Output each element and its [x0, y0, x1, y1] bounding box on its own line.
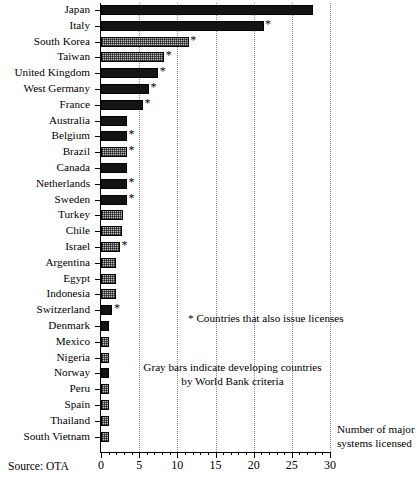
category-label: Turkey [0, 208, 90, 220]
category-label: Netherlands [0, 177, 90, 189]
category-tick [95, 373, 101, 374]
license-asterisk: * [122, 239, 128, 251]
category-label: Indonesia [0, 287, 90, 299]
license-asterisk: * [166, 49, 172, 61]
bar [101, 100, 143, 110]
license-asterisk: * [128, 176, 134, 188]
category-tick [95, 105, 101, 106]
bar-chart: JapanItaly*South Korea*Taiwan*United Kin… [0, 0, 419, 488]
category-label: Mexico [0, 335, 90, 347]
x-tick-17 [231, 452, 232, 455]
license-asterisk: * [190, 34, 196, 46]
bar-row: Spain [0, 398, 419, 414]
category-tick [95, 342, 101, 343]
category-label: South Vietnam [0, 430, 90, 442]
x-tick-3 [124, 452, 125, 455]
bar [101, 274, 116, 284]
bar [101, 337, 109, 347]
license-asterisk: * [265, 18, 271, 30]
category-label: Switzerland [0, 303, 90, 315]
x-tick-8 [162, 452, 163, 455]
x-tick-9 [170, 452, 171, 455]
x-tick-label-15: 15 [201, 458, 231, 472]
category-label: Thailand [0, 414, 90, 426]
bar-row: Mexico [0, 335, 419, 351]
category-tick [95, 184, 101, 185]
x-tick-19 [246, 452, 247, 455]
bar [101, 147, 127, 157]
category-label: Taiwan [0, 50, 90, 62]
x-tick-6 [147, 452, 148, 455]
x-tick-24 [284, 452, 285, 455]
bar [101, 289, 116, 299]
category-label: Peru [0, 382, 90, 394]
bar [101, 163, 127, 173]
category-tick [95, 294, 101, 295]
source-note: Source: OTA [8, 459, 69, 473]
category-tick [95, 57, 101, 58]
category-label: Nigeria [0, 351, 90, 363]
bar-row: Netherlands* [0, 177, 419, 193]
category-tick [95, 168, 101, 169]
category-label: West Germany [0, 82, 90, 94]
bar-row: West Germany* [0, 82, 419, 98]
x-tick-label-0: 0 [86, 458, 116, 472]
category-label: Chile [0, 224, 90, 236]
category-label: Spain [0, 398, 90, 410]
category-label: Italy [0, 19, 90, 31]
bar [101, 195, 127, 205]
x-tick-18 [238, 452, 239, 455]
legend-note: * Countries that also issue licenses [188, 312, 344, 325]
x-tick-27 [307, 452, 308, 455]
bar-row: Argentina [0, 256, 419, 272]
bar-row: Japan [0, 3, 419, 19]
category-tick [95, 42, 101, 43]
bar [101, 353, 109, 363]
category-tick [95, 279, 101, 280]
x-tick-11 [185, 452, 186, 455]
category-label: Israel [0, 240, 90, 252]
bar [101, 37, 189, 47]
x-tick-2 [116, 452, 117, 455]
category-label: Australia [0, 114, 90, 126]
bar [101, 84, 149, 94]
x-tick-21 [261, 452, 262, 455]
category-label: Argentina [0, 256, 90, 268]
bar-row: United Kingdom* [0, 66, 419, 82]
bar [101, 258, 116, 268]
category-tick [95, 26, 101, 27]
category-tick [95, 152, 101, 153]
x-tick-16 [223, 452, 224, 455]
bar-row: Italy* [0, 19, 419, 35]
bar [101, 68, 158, 78]
bar-row: Egypt [0, 272, 419, 288]
bar [101, 131, 127, 141]
bar [101, 321, 109, 331]
category-tick [95, 200, 101, 201]
category-label: Egypt [0, 272, 90, 284]
category-label: Denmark [0, 319, 90, 331]
bar-row: Taiwan* [0, 50, 419, 66]
category-tick [95, 89, 101, 90]
x-axis-title: Number of major systems licensed [337, 423, 419, 450]
x-tick-26 [299, 452, 300, 455]
x-tick-4 [132, 452, 133, 455]
bar [101, 116, 127, 126]
x-tick-12 [193, 452, 194, 455]
category-label: Canada [0, 161, 90, 173]
category-tick [95, 421, 101, 422]
category-label: South Korea [0, 35, 90, 47]
bar [101, 416, 109, 426]
bar [101, 400, 109, 410]
x-tick-label-10: 10 [162, 458, 192, 472]
bar [101, 305, 112, 315]
license-asterisk: * [128, 144, 134, 156]
category-tick [95, 231, 101, 232]
gray-bars-note: Gray bars indicate developing countries … [140, 361, 325, 388]
x-tick-13 [200, 452, 201, 455]
category-tick [95, 389, 101, 390]
category-tick [95, 247, 101, 248]
bar-row: Australia [0, 114, 419, 130]
category-tick [95, 136, 101, 137]
x-tick-label-25: 25 [277, 458, 307, 472]
